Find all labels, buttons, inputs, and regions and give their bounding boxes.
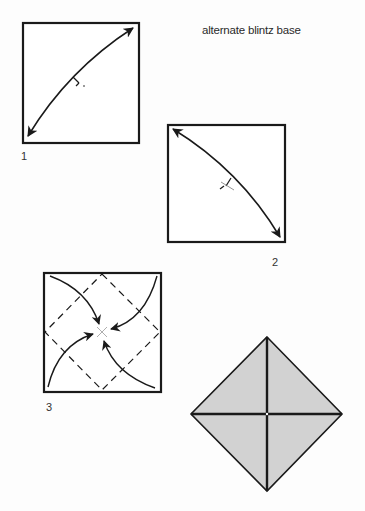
result-diamond (191, 337, 342, 491)
step-2-square (168, 125, 285, 242)
step-1-label: 1 (21, 150, 27, 162)
origami-diagram (0, 0, 365, 511)
step-1-square (23, 23, 139, 143)
step-3-square (44, 273, 161, 392)
step-3-label: 3 (46, 401, 52, 413)
step-2-label: 2 (272, 256, 278, 268)
